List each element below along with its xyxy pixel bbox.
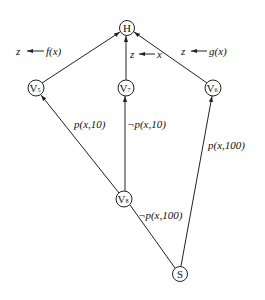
node-v8: V8 xyxy=(116,191,132,207)
edge-label-v8-v5: p(x,10) xyxy=(73,118,106,131)
edge-v8-to-v5 xyxy=(41,95,119,193)
v6-assign-rhs: g(x) xyxy=(209,45,227,58)
flow-graph: z f(x) z x z g(x) p(x,10) ¬p(x,10) p(x,1… xyxy=(0,0,265,300)
v6-assign-lhs: z xyxy=(180,45,186,57)
node-v5: V5 xyxy=(28,80,44,96)
annotation-v7-assign: z x xyxy=(129,48,162,60)
edge-label-s-v6: p(x,100) xyxy=(207,139,245,152)
annotation-v5-assign: z f(x) xyxy=(15,45,62,58)
node-h: H xyxy=(120,21,135,36)
annotation-v6-assign: z g(x) xyxy=(180,45,227,58)
v5-assign-rhs: f(x) xyxy=(46,45,62,58)
v5-assign-lhs: z xyxy=(15,45,21,57)
edge-s-to-v6 xyxy=(181,96,212,266)
node-s: S xyxy=(173,267,188,282)
edge-v6-to-h xyxy=(134,32,207,83)
node-s-label: S xyxy=(177,268,183,280)
v7-assign-rhs: x xyxy=(156,48,162,60)
edge-label-s-v8: ¬p(x,100) xyxy=(138,209,183,222)
edge-label-v8-v7: ¬p(x,10) xyxy=(127,118,166,131)
node-v7: V7 xyxy=(118,80,134,96)
v7-assign-lhs: z xyxy=(129,48,135,60)
edge-v5-to-h xyxy=(42,32,120,83)
node-v6: V6 xyxy=(205,80,221,96)
node-h-label: H xyxy=(123,22,131,34)
